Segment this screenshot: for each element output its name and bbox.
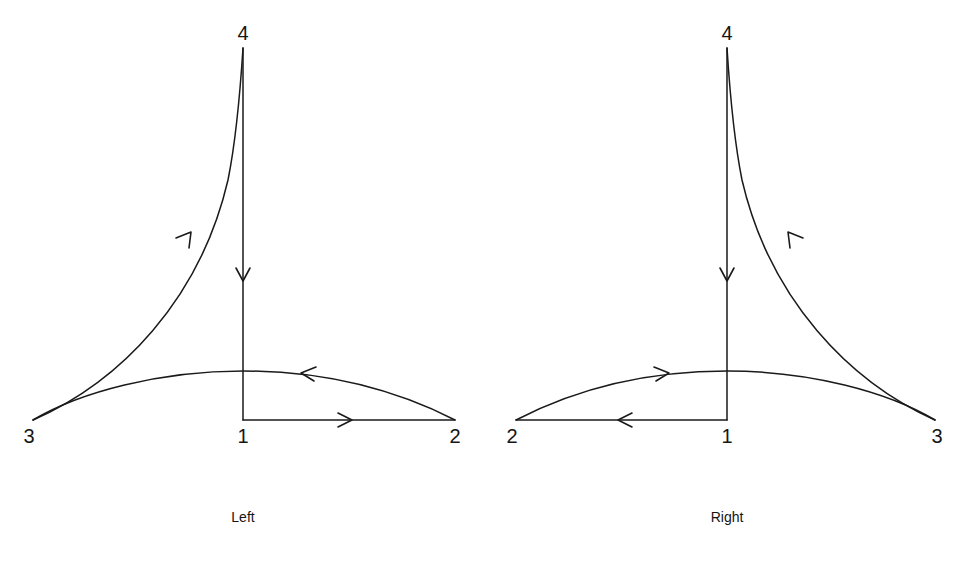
panel-caption-right: Right xyxy=(711,509,744,525)
node-label-left-1: 1 xyxy=(237,425,248,447)
node-label-right-1: 1 xyxy=(721,425,732,447)
edge-left-3-to-4[interactable] xyxy=(33,48,243,420)
edge-right-3-to-4[interactable] xyxy=(727,48,935,420)
figure-root: 1 2 3 4 Left 1 2 3 4 Right xyxy=(0,0,959,561)
panel-caption-left: Left xyxy=(231,509,254,525)
node-label-left-3: 3 xyxy=(23,425,34,447)
node-label-left-4: 4 xyxy=(237,22,248,44)
node-label-right-3: 3 xyxy=(931,425,942,447)
node-label-left-2: 2 xyxy=(449,425,460,447)
arrowhead-left-2-to-3 xyxy=(301,367,316,381)
arrowhead-right-2-to-3 xyxy=(654,367,669,381)
panel-left: 1 2 3 4 Left xyxy=(23,22,460,525)
panel-right: 1 2 3 4 Right xyxy=(506,22,942,525)
arrowhead-right-3-to-4 xyxy=(788,232,803,248)
edge-right-2-to-3[interactable] xyxy=(516,371,935,420)
arrowhead-left-3-to-4 xyxy=(176,232,191,248)
diagram-canvas: 1 2 3 4 Left 1 2 3 4 Right xyxy=(0,0,959,561)
node-label-right-4: 4 xyxy=(721,22,732,44)
node-label-right-2: 2 xyxy=(506,425,517,447)
edge-left-2-to-3[interactable] xyxy=(33,371,455,420)
